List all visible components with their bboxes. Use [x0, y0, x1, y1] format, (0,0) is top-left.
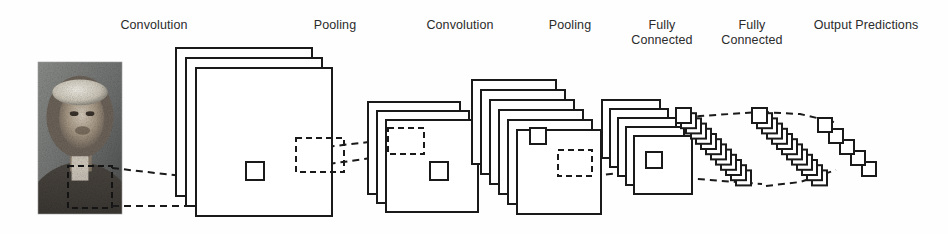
receptive-field-square: [246, 162, 264, 180]
feature-map-plane: [196, 68, 332, 216]
layer-output: [818, 118, 876, 176]
layer-conv1: [176, 48, 344, 216]
layer-conv2: [472, 80, 601, 214]
output-node: [818, 118, 832, 132]
receptive-field-square: [430, 162, 448, 180]
cnn-architecture-diagram: ConvolutionPoolingConvolutionPoolingFull…: [0, 0, 948, 234]
layer-fc2: [752, 108, 827, 185]
fc-node: [752, 108, 767, 123]
receptive-field-square: [530, 128, 546, 144]
layer-pool1: [368, 102, 478, 212]
receptive-field-square: [646, 152, 662, 168]
input-image: [20, 62, 141, 234]
diagram-canvas: [0, 0, 948, 234]
fc-node: [676, 108, 691, 123]
network-layers: [176, 48, 876, 216]
